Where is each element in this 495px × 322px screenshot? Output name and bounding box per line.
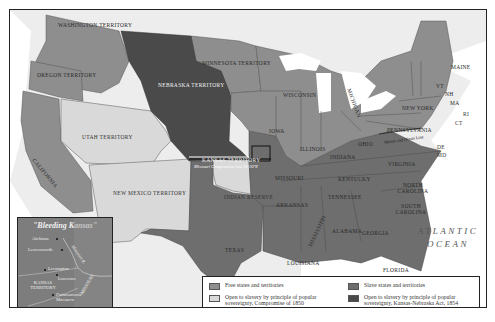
label-alabama: ALABAMA xyxy=(332,228,362,234)
label-nh: NH xyxy=(445,91,454,97)
legend-item-free: Free states and territories xyxy=(209,282,334,290)
label-washington-territory: WASHINGTON TERRITORY xyxy=(58,22,132,28)
label-texas: TEXAS xyxy=(225,247,244,253)
missouri-compromise-line-label: Missouri Compromise line 36°30'N xyxy=(194,164,258,169)
label-illinois: ILLINOIS xyxy=(300,146,326,152)
inset-town-pottawatomie: Pottawatomie Massacre xyxy=(56,292,96,302)
label-arkansas: ARKANSAS xyxy=(276,202,308,208)
label-florida: FLORIDA xyxy=(383,267,409,273)
label-ma: MA xyxy=(450,100,459,106)
label-louisiana: LOUISIANA xyxy=(287,260,320,266)
label-wisconsin: WISCONSIN xyxy=(283,92,316,98)
inset-town-atchison: Atchison xyxy=(32,236,49,241)
inset-bleeding-kansas: "Bleeding Kansas" Atchison Leavenworth L… xyxy=(17,217,113,308)
label-md: MD xyxy=(437,152,446,158)
label-new-mexico-territory: NEW MEXICO TERRITORY xyxy=(113,190,186,196)
label-iowa: IOWA xyxy=(269,128,285,134)
label-kentucky: KENTUCKY xyxy=(338,176,371,182)
label-nebraska-territory: NEBRASKA TERRITORY xyxy=(158,82,224,88)
label-indiana: INDIANA xyxy=(330,154,356,160)
inset-town-lecompton: Lecompton xyxy=(48,266,69,271)
legend-item-slave: Slave states and territories xyxy=(348,282,476,290)
label-virginia: VIRGINIA xyxy=(388,161,415,167)
legend-item-open-1850: Open to slavery by principle of popular … xyxy=(209,294,334,306)
label-kansas-territory: KANSAS TERRITORY xyxy=(202,157,261,163)
swatch-free xyxy=(209,283,220,290)
inset-kansas-label: KANSAS TERRITORY xyxy=(26,280,60,290)
label-de: DE xyxy=(437,144,445,150)
label-vt: VT xyxy=(436,83,444,89)
label-ct: CT xyxy=(455,120,463,126)
label-utah-territory: UTAH TERRITORY xyxy=(82,134,133,140)
label-missouri: MISSOURI xyxy=(275,175,304,181)
label-minnesota-territory: MINNESOTA TERRITORY xyxy=(202,60,271,66)
label-oregon-territory: OREGON TERRITORY xyxy=(37,72,96,78)
label-maine: MAINE xyxy=(451,64,471,70)
map-legend: Free states and territories Open to slav… xyxy=(202,276,480,308)
label-ohio: OHIO xyxy=(358,141,373,147)
label-pennsylvania: PENNSYLVANIA xyxy=(387,127,432,133)
label-north-carolina: NORTH CAROLINA xyxy=(393,182,433,194)
inset-town-lawrence: Lawrence xyxy=(58,276,76,281)
label-georgia: GEORGIA xyxy=(362,230,389,236)
swatch-open-1850 xyxy=(209,295,220,302)
label-ri: RI xyxy=(463,111,469,117)
label-tennessee: TENNESSEE xyxy=(328,194,362,200)
legend-item-open-1854: Open to slavery by principle of popular … xyxy=(348,294,476,306)
swatch-open-1854 xyxy=(348,295,359,302)
swatch-slave xyxy=(348,283,359,290)
inset-town-leavenworth: Leavenworth xyxy=(28,247,52,252)
label-indian-reserve: INDIAN RESERVE xyxy=(224,194,273,200)
label-atlantic-ocean: ATLANTIC OCEAN xyxy=(413,225,483,251)
label-south-carolina: SOUTH CAROLINA xyxy=(391,203,431,215)
label-new-york: NEW YORK xyxy=(402,105,434,111)
map-frame: WASHINGTON TERRITORY OREGON TERRITORY CA… xyxy=(9,9,487,308)
